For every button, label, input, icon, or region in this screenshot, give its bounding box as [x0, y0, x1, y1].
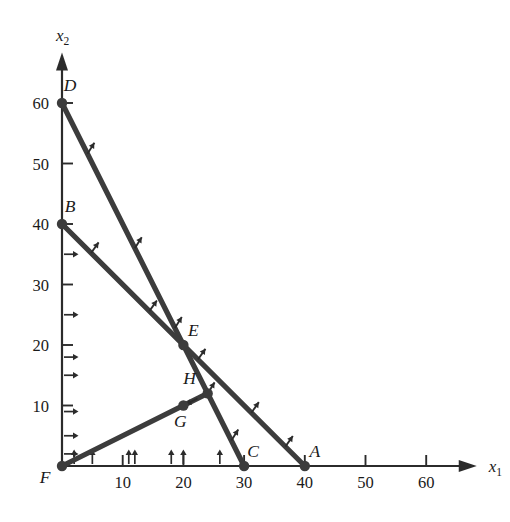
x-axis-hash-arrowhead: [132, 450, 138, 456]
y-axis-hash-arrowhead: [73, 312, 79, 318]
vertex-dot-h: [202, 388, 212, 398]
x-axis-tick-label: 50: [357, 473, 374, 492]
y-axis-tick-label: 20: [33, 336, 50, 355]
x-axis-label: x1: [488, 457, 503, 478]
axes-layer: [56, 53, 477, 472]
vertex-dot-a: [300, 461, 310, 471]
y-axis-hash-arrowhead: [73, 354, 79, 360]
x-axis-tick-label: 20: [175, 473, 192, 492]
axis-labels-layer: x1x2: [55, 26, 502, 478]
constraint-line-constraint-DC: [62, 103, 244, 466]
x-axis-tick-label: 60: [418, 473, 435, 492]
y-axis-tick-label: 50: [33, 155, 50, 174]
feasible-region-chart: 102030405060102030405060 ABCDEFGH x1x2: [0, 0, 510, 522]
y-axis-hash-arrowhead: [73, 408, 79, 414]
x-axis-tick-label: 10: [114, 473, 131, 492]
x-axis-hash-arrowhead: [168, 450, 174, 456]
point-label-f: F: [39, 467, 51, 487]
point-label-e: E: [187, 320, 199, 340]
y-axis-hash-arrowhead: [73, 433, 79, 439]
y-axis-hash-arrowhead: [73, 372, 79, 378]
y-axis-tick-label: 60: [33, 94, 50, 113]
x-axis-arrowhead: [459, 460, 477, 472]
point-label-d: D: [63, 75, 77, 95]
point-label-b: B: [65, 196, 76, 216]
vertex-dot-c: [239, 461, 249, 471]
x-axis-hash-arrowhead: [180, 450, 186, 456]
x-axis-hash-arrowhead: [217, 450, 223, 456]
point-label-g: G: [174, 411, 187, 431]
point-label-h: H: [182, 368, 197, 388]
vertex-dot-d: [57, 98, 67, 108]
y-axis-tick-label: 10: [33, 397, 50, 416]
x-axis-tick-label: 40: [297, 473, 314, 492]
x-axis-hash-arrowhead: [126, 450, 132, 456]
point-label-c: C: [247, 441, 259, 461]
vertex-dot-b: [57, 219, 67, 229]
y-axis-label: x2: [55, 26, 70, 47]
x-axis-tick-label: 30: [236, 473, 253, 492]
ticks-layer: [62, 103, 426, 466]
x-axis-label-subscript: 1: [496, 466, 502, 478]
vertex-dot-g: [178, 400, 188, 410]
y-axis-tick-label: 30: [33, 276, 50, 295]
vertex-dot-e: [178, 340, 188, 350]
y-axis-arrowhead: [56, 53, 68, 71]
vertex-dot-f: [57, 461, 67, 471]
point-label-a: A: [308, 441, 320, 461]
y-axis-hash-arrowhead: [73, 251, 79, 257]
direction-arrows-layer: [87, 143, 292, 447]
y-axis-tick-label: 40: [33, 215, 50, 234]
y-axis-label-subscript: 2: [64, 35, 70, 47]
figure-root: 102030405060102030405060 ABCDEFGH x1x2: [0, 0, 510, 522]
